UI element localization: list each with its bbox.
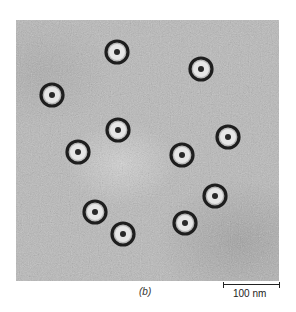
virus-particle bbox=[39, 82, 65, 108]
panel-label: (b) bbox=[139, 286, 151, 297]
virus-particle bbox=[215, 124, 241, 150]
virus-particle bbox=[172, 210, 198, 236]
virus-particle bbox=[65, 139, 91, 165]
virus-particle bbox=[110, 221, 136, 247]
scale-bar-label: 100 nm bbox=[233, 288, 266, 299]
virus-particle bbox=[202, 183, 228, 209]
virus-particle bbox=[169, 142, 195, 168]
virus-particle bbox=[104, 39, 130, 65]
virus-particle bbox=[82, 199, 108, 225]
grain-texture bbox=[16, 20, 279, 281]
virus-particle bbox=[188, 56, 214, 82]
electron-micrograph bbox=[16, 20, 279, 281]
virus-particle bbox=[105, 117, 131, 143]
